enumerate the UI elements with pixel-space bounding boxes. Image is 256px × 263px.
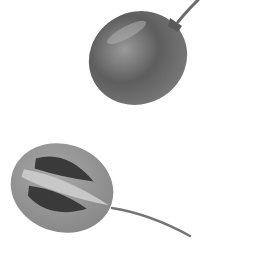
whole-fruit-stem [178, 0, 198, 22]
whole-fruit [72, 0, 203, 122]
halved-fruit-stem [112, 208, 190, 236]
halved-fruit [0, 130, 125, 246]
photo-scene [0, 0, 256, 263]
